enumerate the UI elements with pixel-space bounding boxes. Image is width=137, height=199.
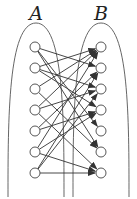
edges — [38, 49, 98, 173]
node-a-1 — [30, 42, 40, 52]
node-a-7 — [30, 168, 40, 178]
node-b-7 — [96, 168, 106, 178]
node-a-4 — [30, 105, 40, 115]
node-b-5 — [96, 126, 106, 136]
node-b-6 — [96, 147, 106, 157]
node-a-5 — [30, 126, 40, 136]
node-b-1 — [96, 42, 106, 52]
set-b-label: B — [93, 2, 108, 24]
node-b-4 — [96, 105, 106, 115]
node-a-3 — [30, 84, 40, 94]
node-b-3 — [96, 84, 106, 94]
node-a-6 — [30, 147, 40, 157]
node-b-2 — [96, 63, 106, 73]
set-a-label: A — [27, 2, 43, 24]
nodes — [30, 42, 106, 178]
bipartite-graph: A B — [0, 0, 137, 199]
node-a-2 — [30, 63, 40, 73]
